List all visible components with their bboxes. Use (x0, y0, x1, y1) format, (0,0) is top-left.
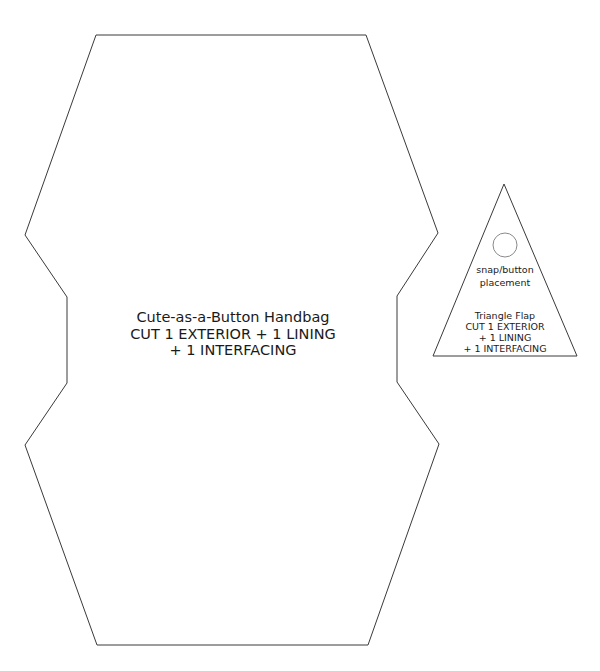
flap-cut-instruction-1: CUT 1 EXTERIOR (450, 321, 560, 332)
handbag-cut-instruction-2: + 1 INTERFACING (120, 342, 346, 359)
handbag-cut-instruction-1: CUT 1 EXTERIOR + 1 LINING (120, 326, 346, 343)
flap-title: Triangle Flap (450, 310, 560, 321)
triangle-flap-label: Triangle Flap CUT 1 EXTERIOR + 1 LINING … (450, 310, 560, 354)
handbag-title: Cute-as-a-Button Handbag (120, 309, 346, 326)
handbag-piece-label: Cute-as-a-Button Handbag CUT 1 EXTERIOR … (120, 309, 346, 359)
snap-label-line-2: placement (455, 277, 555, 290)
flap-cut-instruction-3: + 1 INTERFACING (450, 343, 560, 354)
snap-label-line-1: snap/button (455, 264, 555, 277)
snap-placement-label: snap/button placement (455, 264, 555, 289)
snap-button-placement-circle-icon (493, 233, 517, 257)
flap-cut-instruction-2: + 1 LINING (450, 332, 560, 343)
